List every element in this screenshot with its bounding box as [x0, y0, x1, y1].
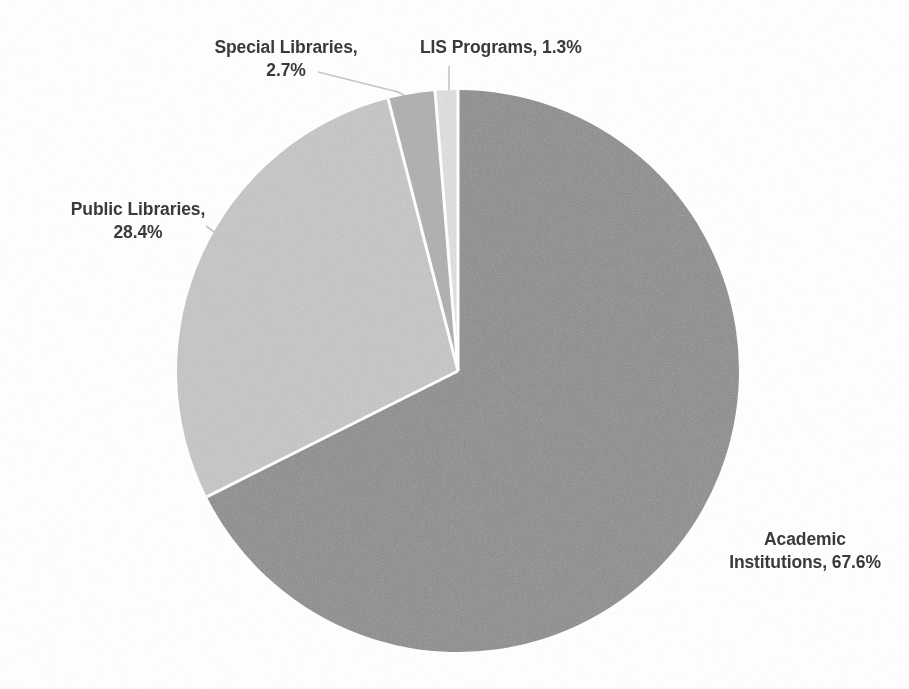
slice-label-public-libraries: Public Libraries, 28.4%	[48, 198, 228, 244]
pie-chart-canvas	[0, 0, 909, 689]
pie-chart-figure: Special Libraries, 2.7% LIS Programs, 1.…	[0, 0, 909, 689]
slice-label-academic-institutions: Academic Institutions, 67.6%	[706, 528, 904, 574]
slice-label-lis-programs: LIS Programs, 1.3%	[420, 36, 650, 59]
slice-label-special-libraries: Special Libraries, 2.7%	[196, 36, 376, 82]
